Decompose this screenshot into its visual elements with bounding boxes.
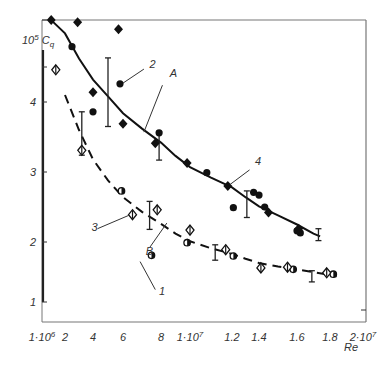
x-tick-label: 4: [90, 331, 96, 343]
x-tick-label: 1·107: [177, 330, 204, 343]
x-tick-label: 6: [120, 331, 127, 343]
annotation-1: 1: [159, 285, 165, 297]
annotation-B: B: [146, 245, 153, 257]
x-tick-label: 1.6: [289, 331, 305, 343]
y-tick-label: 3: [30, 166, 37, 178]
point-series-2: [203, 169, 210, 176]
fit-curves: [51, 20, 336, 276]
x-tick-label: 2: [61, 331, 68, 343]
y-tick-label: 1: [30, 296, 36, 308]
curve-B: [65, 95, 337, 276]
annotation-4: 4: [255, 155, 261, 167]
point-series-2: [116, 80, 123, 87]
x-tick-label: 1.4: [251, 331, 266, 343]
point-series-2: [89, 108, 96, 115]
x-tick-label: 8: [158, 331, 165, 343]
point-series-2: [230, 204, 237, 211]
annotation-3: 3: [92, 221, 99, 233]
point-series-2: [255, 192, 262, 199]
curve-A: [51, 20, 320, 236]
error-bars: [79, 58, 322, 282]
x-axis-label: Re: [344, 341, 358, 353]
x-tick-label: 1.2: [224, 331, 239, 343]
annotation-2: 2: [149, 58, 156, 70]
annotation-A: A: [169, 67, 177, 79]
data-points: [47, 15, 337, 278]
scatter-plot: AB1234 12341·10624681·1071.21.41.61.82·1…: [0, 0, 389, 368]
x-tick-label: 1·106: [29, 330, 56, 343]
point-series-4: [223, 181, 232, 191]
point-series-2: [68, 43, 75, 50]
point-series-4: [73, 17, 82, 27]
point-series-2: [156, 129, 163, 136]
annotations: AB1234: [92, 58, 261, 297]
y-tick-label: 2: [29, 236, 36, 248]
point-series-4: [89, 87, 98, 97]
y-axis-label: 105Cq: [22, 33, 55, 49]
y-tick-label: 4: [30, 96, 36, 108]
point-series-4: [114, 24, 123, 34]
x-tick-label: 1.8: [322, 331, 338, 343]
point-series-4: [119, 119, 128, 129]
axis-ticks: 12341·10624681·1071.21.41.61.82·107: [29, 20, 377, 343]
chart-container: AB1234 12341·10624681·1071.21.41.61.82·1…: [0, 0, 389, 368]
